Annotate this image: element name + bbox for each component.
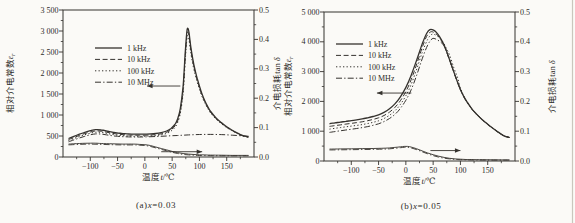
y-left-tick-label: 500 [47,132,59,141]
x-tick-label: 50 [429,166,437,175]
legend-label-10-mhz: 10 MHz [368,74,395,83]
y-left-tick-label: 1 500 [41,90,59,99]
arrow-head-left-axis [377,91,383,95]
legend-label-1-khz: 1 kHz [127,44,147,53]
x-tick-label: 100 [193,162,205,171]
y-left-tick-label: 5 000 [302,8,320,17]
y-left-tick-label: 2 000 [41,69,59,78]
y-left-tick-label: 1 000 [41,111,59,120]
y-right-tick-label: 0.2 [259,94,269,103]
x-tick-label: −100 [343,166,360,175]
x-tick-label: 0 [143,162,147,171]
y-right-tick-label: 0.3 [259,64,269,73]
series-b-tan-delta-1-khz [330,146,510,160]
y-left-tick-label: 1 000 [302,127,320,136]
x-tick-label: 150 [221,162,233,171]
y-right-tick-label: 0.4 [520,37,530,46]
dielectric-figure-svg: −100−5005010015005001 0001 5002 0002 500… [0,0,575,223]
arrow-head-right-axis [455,148,461,152]
x-tick-label: 50 [168,162,176,171]
x-tick-label: −50 [372,166,385,175]
y-right-axis-title-a: 介电损耗tan δ [272,56,282,110]
y-right-tick-label: 0.0 [259,153,269,162]
arrow-head-right-axis [197,150,203,154]
legend-label-100-khz: 100 kHz [368,63,396,72]
x-tick-label: −100 [82,162,99,171]
series-b-1-khz [330,29,510,137]
legend-label-10-khz: 10 kHz [368,51,392,60]
y-right-tick-label: 0.1 [520,127,530,136]
x-axis-title-a: 温度t/℃ [142,172,174,182]
y-right-axis-title-b: 介电损耗tan δ [547,59,557,113]
x-tick-label: 0 [404,166,408,175]
y-right-tick-label: 0.3 [520,67,530,76]
y-right-tick-label: 0.4 [259,35,269,44]
figure-page: −100−5005010015005001 0001 5002 0002 500… [0,0,575,223]
y-right-tick-label: 0.2 [520,97,530,106]
series-b-10-khz [330,32,510,138]
legend-label-100-khz: 100 kHz [127,67,155,76]
legend-label-1-khz: 1 kHz [368,40,388,49]
y-left-tick-label: 2 500 [41,48,59,57]
x-tick-label: 100 [454,166,466,175]
y-left-tick-label: 0 [55,153,59,162]
caption-b: (b)x=0.05 [401,201,442,211]
y-left-tick-label: 4 000 [302,37,320,46]
legend-label-10-khz: 10 kHz [127,55,151,64]
y-right-tick-label: 0.0 [520,157,530,166]
y-left-tick-label: 2 000 [302,97,320,106]
chart-b: −100−5005010015001 0002 0003 0004 0005 0… [283,8,557,211]
y-left-tick-label: 3 500 [41,6,59,15]
series-b-100-khz [330,34,510,137]
y-left-tick-label: 0 [316,157,320,166]
caption-a: (a)x=0.03 [136,200,176,210]
x-tick-label: 150 [482,166,494,175]
series-a-tan-delta-1-khz [69,143,249,155]
y-left-tick-label: 3 000 [302,67,320,76]
y-left-axis-title-a: 相对介电常数εr [5,53,16,113]
x-axis-title-b: 温度t/℃ [403,176,435,186]
series-a-tan-delta-10-mhz [69,144,249,156]
y-left-axis-title-b: 相对介电常数εr [283,56,294,116]
x-tick-label: −50 [111,162,124,171]
chart-a: −100−5005010015005001 0001 5002 0002 500… [5,6,282,210]
y-right-tick-label: 0.1 [259,123,269,132]
y-left-tick-label: 3 000 [41,27,59,36]
plot-frame-b [324,12,515,161]
series-b-tan-delta-10-mhz [330,147,510,160]
series-a-1-khz [69,28,249,138]
y-right-tick-label: 0.5 [520,8,530,17]
series-a-100-khz [69,36,249,141]
y-right-tick-label: 0.5 [259,6,269,15]
